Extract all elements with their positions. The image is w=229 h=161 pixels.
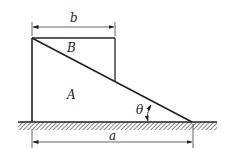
- wedge-a: [32, 38, 192, 122]
- label-block-b: B: [67, 42, 76, 54]
- physics-diagram: b B A θ a: [0, 0, 229, 161]
- label-theta: θ: [136, 104, 143, 116]
- label-a: a: [109, 130, 116, 142]
- angle-theta-arc: [147, 105, 151, 121]
- label-block-a: A: [67, 89, 76, 101]
- label-b: b: [70, 12, 78, 24]
- ground: [18, 122, 217, 130]
